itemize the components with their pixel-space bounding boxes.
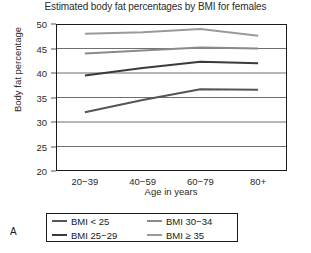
legend-label: BMI 25−29 xyxy=(71,230,117,241)
y-axis-tick-label: 40 xyxy=(36,68,47,79)
y-axis-tick-labels: 20253035404550 xyxy=(0,0,56,175)
legend: BMI < 25BMI 30−34BMI 25−29BMI ≥ 35 xyxy=(46,213,238,242)
y-axis-tick-label: 30 xyxy=(36,117,47,128)
x-axis-label: Age in years xyxy=(56,186,286,197)
plot-area xyxy=(56,24,287,171)
series-lines xyxy=(85,29,258,112)
legend-label: BMI 30−34 xyxy=(166,216,212,227)
legend-grid: BMI < 25BMI 30−34BMI 25−29BMI ≥ 35 xyxy=(47,214,237,241)
y-axis-tick-label: 35 xyxy=(36,92,47,103)
legend-item[interactable]: BMI 25−29 xyxy=(52,230,147,241)
chart-svg xyxy=(56,24,287,171)
legend-color-swatch xyxy=(52,234,67,236)
y-axis-tick-label: 45 xyxy=(36,43,47,54)
legend-item[interactable]: BMI < 25 xyxy=(52,216,147,227)
legend-color-swatch xyxy=(52,220,67,222)
legend-color-swatch xyxy=(147,220,162,222)
legend-color-swatch xyxy=(147,234,162,236)
figure-panel: Estimated body fat percentages by BMI fo… xyxy=(0,0,311,253)
legend-label: BMI ≥ 35 xyxy=(166,230,204,241)
y-axis-tick-label: 20 xyxy=(36,166,47,177)
panel-letter: A xyxy=(10,226,17,237)
legend-item[interactable]: BMI ≥ 35 xyxy=(147,230,242,241)
series-line xyxy=(85,29,258,36)
legend-label: BMI < 25 xyxy=(71,216,109,227)
series-line xyxy=(85,89,258,112)
legend-item[interactable]: BMI 30−34 xyxy=(147,216,242,227)
y-axis-tick-label: 25 xyxy=(36,141,47,152)
y-axis-tick-label: 50 xyxy=(36,19,47,30)
